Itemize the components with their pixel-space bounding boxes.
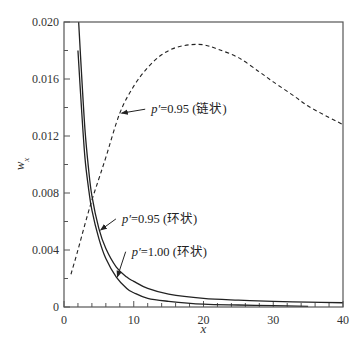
- curve-annotations: p′=0.95 (链状)p′=0.95 (环状)p′=1.00 (环状): [101, 101, 227, 277]
- plot-frame: [64, 22, 343, 307]
- y-axis-label-subscript: x: [21, 158, 31, 163]
- x-tick-label: 30: [267, 313, 279, 327]
- x-axis-label: x: [200, 321, 207, 336]
- y-tick-label: 0.008: [32, 186, 59, 200]
- x-tick-label: 0: [61, 313, 67, 327]
- x-tick-label: 10: [128, 313, 140, 327]
- y-tick-label: 0.016: [32, 72, 59, 86]
- tick-labels: 01020304000.0040.0080.0120.0160.020: [32, 15, 349, 327]
- series-line-1: [79, 22, 343, 303]
- y-tick-label: 0: [53, 300, 59, 314]
- annotation-label-0: p′=0.95 (链状): [150, 101, 226, 116]
- y-tick-label: 0.012: [32, 129, 59, 143]
- y-axis-label-main: w: [12, 161, 27, 170]
- x-tick-label: 40: [337, 313, 349, 327]
- annotation-arrow-1: [101, 219, 116, 230]
- y-tick-label: 0.004: [32, 243, 59, 257]
- axis-ticks: [64, 22, 343, 307]
- chart-canvas: 01020304000.0040.0080.0120.0160.020 x wx…: [0, 0, 364, 352]
- y-axis-label: wx: [12, 158, 31, 171]
- data-series: [71, 22, 343, 306]
- annotation-arrow-0: [121, 109, 145, 113]
- annotation-label-1: p′=0.95 (环状): [121, 212, 197, 226]
- series-line-0: [71, 44, 343, 274]
- annotation-label-2: p′=1.00 (环状): [131, 245, 207, 259]
- series-line-2: [78, 51, 308, 307]
- y-tick-label: 0.020: [32, 15, 59, 29]
